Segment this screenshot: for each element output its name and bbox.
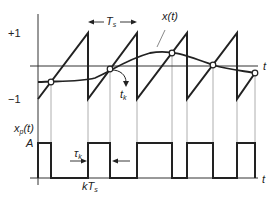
amplitude-label: A [25, 137, 33, 149]
top-t-label: t [263, 60, 267, 72]
pwm-sampling-diagram: +1 −1 t Ts x(t) tk xp(t) A τk kTs t [0, 0, 279, 200]
tau-label: τk [74, 147, 82, 160]
period-label: Ts [106, 15, 117, 28]
crossing-time-label: tk [120, 88, 127, 101]
y-tick-plus-one: +1 [8, 27, 21, 39]
pwm-y-label: xp(t) [13, 122, 34, 136]
pwm-pulse-train [38, 143, 255, 178]
y-tick-minus-one: −1 [8, 93, 21, 105]
tk-arrow [112, 70, 126, 82]
signal-label: x(t) [161, 10, 178, 22]
tk-arrowhead [123, 81, 129, 87]
bottom-t-label: t [262, 173, 266, 185]
kTs-label: kTs [82, 180, 98, 193]
signal-leader-line [157, 30, 165, 47]
